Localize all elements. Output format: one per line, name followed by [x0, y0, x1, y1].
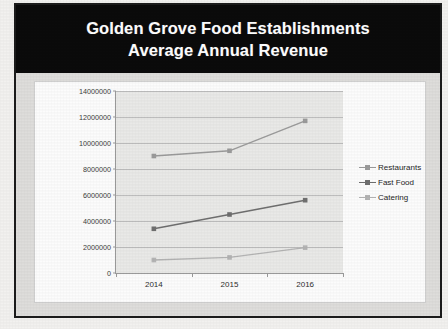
- data-point-marker: [227, 149, 232, 154]
- page-background: Golden Grove Food Establishments Average…: [0, 0, 448, 329]
- legend-item-restaurants[interactable]: Restaurants: [359, 160, 445, 175]
- y-axis-tick-label: 14000000: [79, 87, 111, 96]
- data-point-marker: [152, 154, 157, 159]
- figure-frame: Golden Grove Food Establishments Average…: [14, 3, 442, 318]
- data-point-marker: [152, 227, 157, 232]
- y-axis-tick-label: 0: [107, 269, 111, 278]
- legend-label: Fast Food: [378, 178, 414, 187]
- x-axis-tick-label: 2014: [145, 280, 163, 289]
- plot-area: 1400000012000000100000008000000600000040…: [115, 91, 343, 274]
- chart-legend: RestaurantsFast FoodCatering: [359, 160, 445, 205]
- chart-title-line-1: Golden Grove Food Establishments: [86, 19, 370, 37]
- series-catering: [152, 245, 308, 262]
- data-point-marker: [227, 255, 232, 260]
- legend-marker-icon: [359, 178, 376, 187]
- legend-label: Catering: [378, 193, 408, 202]
- y-axis-tick-label: 2000000: [83, 243, 111, 252]
- chart-canvas: 1400000012000000100000008000000600000040…: [34, 81, 426, 303]
- page-title: Golden Grove Food Establishments Average…: [68, 17, 388, 62]
- x-axis-tick-mark: [267, 273, 268, 277]
- data-point-marker: [227, 212, 232, 217]
- series-layer: [116, 91, 343, 273]
- legend-label: Restaurants: [378, 163, 421, 172]
- y-axis-tick-label: 4000000: [83, 217, 111, 226]
- data-point-marker: [152, 258, 157, 263]
- legend-marker-icon: [359, 193, 376, 202]
- x-axis-tick-mark: [343, 273, 344, 277]
- x-axis-tick-label: 2016: [296, 280, 314, 289]
- chart-title-banner: Golden Grove Food Establishments Average…: [16, 5, 440, 73]
- legend-item-fast-food[interactable]: Fast Food: [359, 175, 445, 190]
- y-axis-tick-label: 12000000: [79, 113, 111, 122]
- data-point-marker: [303, 198, 308, 203]
- y-axis-tick-label: 6000000: [83, 191, 111, 200]
- data-point-marker: [303, 245, 308, 250]
- legend-item-catering[interactable]: Catering: [359, 190, 445, 205]
- y-axis-tick-label: 10000000: [79, 139, 111, 148]
- legend-marker-icon: [359, 163, 376, 172]
- x-axis-tick-mark: [116, 273, 117, 277]
- x-axis-tick-label: 2015: [221, 280, 239, 289]
- data-point-marker: [303, 119, 308, 124]
- chart-frame: 1400000012000000100000008000000600000040…: [16, 73, 440, 316]
- y-axis-tick-label: 8000000: [83, 165, 111, 174]
- x-axis-tick-mark: [192, 273, 193, 277]
- chart-title-line-2: Average Annual Revenue: [128, 41, 328, 59]
- series-fast-food: [152, 198, 308, 231]
- series-restaurants: [152, 119, 308, 159]
